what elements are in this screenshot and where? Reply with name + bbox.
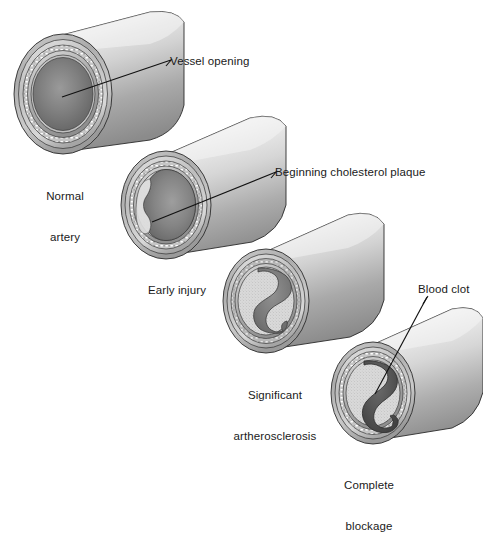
caption-complete-line1: Complete — [314, 479, 424, 493]
label-vessel-opening: Vessel opening — [170, 55, 249, 69]
caption-early-injury: Early injury — [119, 257, 235, 311]
caption-significant-line1: Significant — [208, 389, 342, 403]
caption-significant-artherosclerosis: Significant artherosclerosis — [208, 362, 342, 457]
caption-early-injury-line1: Early injury — [119, 284, 235, 298]
vessel-lumen-normal — [33, 58, 93, 131]
label-beginning-cholesterol-plaque: Beginning cholesterol plaque — [275, 166, 426, 180]
label-blood-clot: Blood clot — [418, 283, 470, 297]
caption-normal-artery-line1: Normal — [17, 190, 113, 204]
caption-complete-blockage: Complete blockage — [314, 452, 424, 536]
caption-normal-artery-line2: artery — [17, 231, 113, 245]
caption-complete-line2: blockage — [314, 520, 424, 534]
caption-normal-artery: Normal artery — [17, 163, 113, 258]
caption-significant-line2: artherosclerosis — [208, 430, 342, 444]
